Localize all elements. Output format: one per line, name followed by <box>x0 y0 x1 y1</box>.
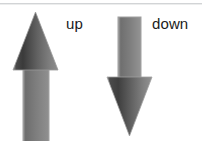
top-divider-line-soft <box>0 4 202 5</box>
arrow-direction-figure: up down <box>0 0 202 141</box>
up-label: up <box>66 16 83 32</box>
down-label: down <box>152 16 188 32</box>
arrow-down-icon <box>104 14 160 140</box>
arrow-up-icon <box>8 9 64 141</box>
